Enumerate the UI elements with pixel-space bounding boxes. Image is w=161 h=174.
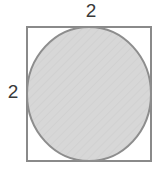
geometry-figure: 2 2 (0, 0, 161, 174)
figure-canvas (0, 0, 161, 174)
side-length-label-left: 2 (5, 82, 21, 101)
inscribed-circle (27, 27, 151, 161)
side-length-label-top: 2 (81, 1, 101, 20)
